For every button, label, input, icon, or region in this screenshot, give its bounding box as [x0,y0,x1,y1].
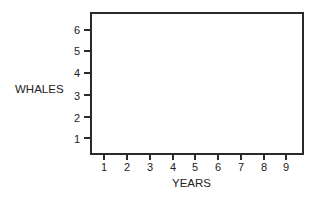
x-tick-6 [217,153,219,160]
x-tick-2 [126,153,128,160]
y-tick-label: 2 [70,113,80,124]
x-tick-label: 6 [212,162,224,173]
x-tick-label: 9 [280,162,292,173]
y-axis-title: WHALES [15,83,64,95]
x-tick-5 [194,153,196,160]
x-tick-1 [103,153,105,160]
y-tick-1 [84,137,91,139]
y-tick-3 [84,94,91,96]
x-axis-title: YEARS [172,177,211,189]
x-tick-4 [172,153,174,160]
y-tick-label: 1 [70,134,80,145]
y-tick-label: 3 [70,91,80,102]
x-tick-label: 3 [144,162,156,173]
x-tick-label: 2 [121,162,133,173]
y-tick-5 [84,50,91,52]
y-tick-4 [84,72,91,74]
y-tick-label: 6 [70,25,80,36]
y-tick-label: 4 [70,68,80,79]
y-tick-2 [84,116,91,118]
x-tick-label: 5 [189,162,201,173]
x-tick-9 [285,153,287,160]
x-tick-3 [149,153,151,160]
x-tick-7 [240,153,242,160]
y-tick-6 [84,29,91,31]
x-tick-8 [263,153,265,160]
x-tick-label: 4 [167,162,179,173]
x-tick-label: 1 [98,162,110,173]
y-tick-label: 5 [70,46,80,57]
plot-frame [90,12,304,155]
x-tick-label: 7 [235,162,247,173]
x-tick-label: 8 [258,162,270,173]
